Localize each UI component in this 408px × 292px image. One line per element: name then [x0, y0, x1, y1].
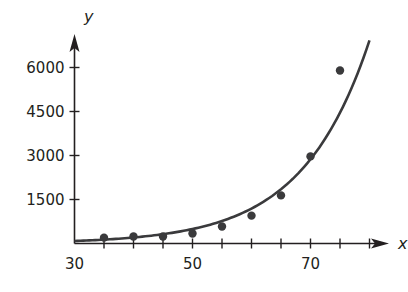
y-tick-label: 1500 [26, 191, 64, 209]
data-point [247, 211, 255, 219]
data-point [277, 191, 285, 199]
x-axis: 305070 [65, 239, 389, 274]
fit-curve [75, 40, 370, 241]
data-point [100, 233, 108, 241]
y-tick-label: 6000 [26, 59, 64, 77]
y-tick-label: 4500 [26, 103, 64, 121]
x-tick-label: 30 [65, 255, 84, 273]
data-point [306, 152, 314, 160]
data-point [218, 222, 226, 230]
y-axis-label: y [83, 7, 94, 26]
data-point [129, 232, 137, 240]
x-tick-label: 70 [301, 255, 320, 273]
data-point [188, 229, 196, 237]
y-tick-label: 3000 [26, 147, 64, 165]
data-point [336, 66, 344, 74]
x-axis-label: x [397, 234, 408, 253]
data-points [100, 66, 344, 242]
x-tick-label: 50 [183, 255, 202, 273]
scatter-chart: 1500300045006000 305070 y x [0, 0, 408, 292]
data-point [159, 232, 167, 240]
y-axis: 1500300045006000 [26, 34, 79, 244]
